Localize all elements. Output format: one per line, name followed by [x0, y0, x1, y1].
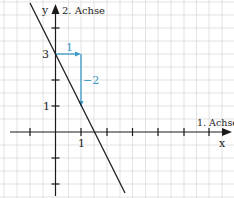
y-axis: [52, 12, 60, 196]
rise-label: −2: [83, 74, 99, 87]
x-axis-var-label: x: [219, 137, 226, 150]
y-axis-arrow-icon: [52, 4, 60, 14]
y-tick-3-label: 3: [42, 48, 49, 61]
y-axis-var-label: y: [41, 4, 49, 17]
y-axis-label: 2. Achse: [62, 5, 105, 16]
run-label: 1: [66, 41, 73, 54]
grid: [0, 0, 234, 198]
run-arrow-icon: [75, 52, 81, 57]
y-tick-1-label: 1: [43, 100, 50, 113]
x-tick-1-label: 1: [78, 137, 85, 150]
x-axis: [10, 128, 226, 136]
x-axis-label: 1. Achse: [197, 117, 234, 128]
graph-line: [30, 3, 125, 193]
coordinate-diagram: y 2. Achse 1. Achse x 3 1 1 1 −2: [0, 0, 234, 198]
x-axis-arrow-icon: [222, 128, 232, 136]
